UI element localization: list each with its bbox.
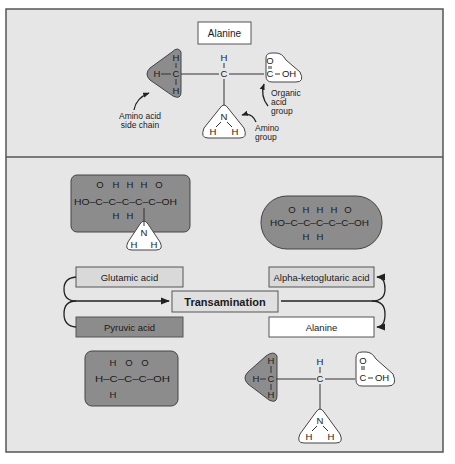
atom-c: C (173, 68, 180, 79)
atom-o: O (266, 55, 273, 66)
atom-h: H (127, 179, 134, 190)
alpha-ketoglutaric-structure: O H H H O HO–C–C–C–C–C–OH H H (261, 196, 382, 249)
transamination-diagram: Alanine H H H C H C O C OH N H H Amino a… (0, 0, 455, 464)
atom-h: H (127, 210, 134, 221)
atom-h: H (317, 356, 324, 367)
glutamic-acid-label: Glutamic acid (101, 272, 159, 283)
atom-h: H (113, 179, 120, 190)
atom-c: C (268, 373, 275, 384)
atom-h: H (210, 126, 217, 137)
title-label: Alanine (208, 28, 242, 39)
atom-o: O (96, 179, 103, 190)
atom-h: H (131, 239, 138, 250)
atom-h: H (173, 52, 180, 63)
atom-h: H (303, 231, 310, 242)
alanine-label: Alanine (306, 322, 338, 333)
amino-group-label: group (255, 132, 277, 142)
atom-h: H (331, 204, 338, 215)
atom-h: H (303, 204, 310, 215)
atom-h: H (110, 357, 117, 368)
atom-h: H (317, 231, 324, 242)
atom-h: H (151, 239, 158, 250)
atom-h: H (221, 52, 228, 63)
acid-group-label: group (271, 106, 293, 116)
alpha-ketoglutaric-label: Alpha-ketoglutaric acid (273, 272, 369, 283)
atom-oh: OH (375, 372, 389, 383)
atom-c: C (317, 373, 324, 384)
atom-h: H (268, 355, 275, 366)
atom-oh: OH (282, 68, 296, 79)
atom-o: O (141, 357, 148, 368)
main-chain: H–C–C–C–OH (95, 373, 170, 384)
atom-o: O (155, 179, 162, 190)
atom-o: O (344, 204, 351, 215)
side-chain-label: side chain (121, 120, 160, 130)
main-chain: HO–C–C–C–C–C–OH (270, 217, 369, 228)
atom-c: C (221, 68, 228, 79)
atom-h: H (110, 389, 117, 400)
atom-o: O (359, 355, 366, 366)
atom-h: H (232, 126, 239, 137)
atom-h: H (268, 389, 275, 400)
atom-h: H (328, 431, 335, 442)
atom-h: H (141, 179, 148, 190)
atom-h: H (306, 431, 313, 442)
atom-h: H (253, 373, 260, 384)
atom-c: C (360, 372, 367, 383)
atom-n: N (317, 415, 324, 426)
atom-n: N (141, 227, 148, 238)
atom-h: H (317, 204, 324, 215)
transamination-label: Transamination (184, 296, 266, 308)
atom-c: C (267, 68, 274, 79)
atom-o: O (125, 357, 132, 368)
pyruvic-acid-structure: H O O H–C–C–C–OH H (85, 351, 178, 406)
atom-h: H (154, 68, 161, 79)
main-chain: HO–C–C–C–C–C–OH (74, 196, 177, 207)
atom-n: N (221, 111, 228, 122)
atom-o: O (288, 204, 295, 215)
pyruvic-acid-label: Pyruvic acid (104, 322, 155, 333)
atom-h: H (173, 85, 180, 96)
atom-h: H (113, 210, 120, 221)
